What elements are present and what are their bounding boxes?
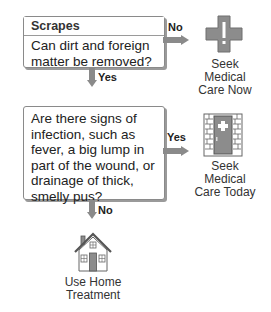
caption-line1: Seek Medical: [190, 58, 260, 84]
question-box-infection: Are there signs of infection, such as fe…: [23, 106, 165, 200]
arrow-down-no: [86, 200, 98, 220]
arrow-down-yes: [86, 68, 98, 88]
yes-label: Yes: [98, 71, 117, 83]
caption-line2: Treatment: [58, 289, 128, 302]
outcome-care-today: Seek Medical Care Today: [190, 160, 260, 199]
caption-line1: Seek Medical: [190, 160, 260, 186]
no-label: No: [98, 204, 113, 216]
arrow-right-yes: [163, 145, 191, 157]
no-label: No: [168, 21, 183, 33]
arrow-right-no: [163, 34, 191, 46]
caption-line2: Care Now: [190, 84, 260, 97]
outcome-care-now: Seek Medical Care Now: [190, 58, 260, 97]
caption-line2: Care Today: [190, 186, 260, 199]
house-icon: [72, 230, 114, 274]
yes-label: Yes: [167, 131, 186, 143]
medical-cross-exclamation-icon: [204, 14, 244, 54]
clinic-door-icon: [203, 113, 243, 157]
question-text: Are there signs of infection, such as fe…: [24, 107, 164, 208]
question-box-scrapes: Scrapes Can dirt and foreign matter be r…: [23, 16, 165, 68]
outcome-home: Use Home Treatment: [58, 276, 128, 302]
box-title: Scrapes: [24, 17, 164, 36]
